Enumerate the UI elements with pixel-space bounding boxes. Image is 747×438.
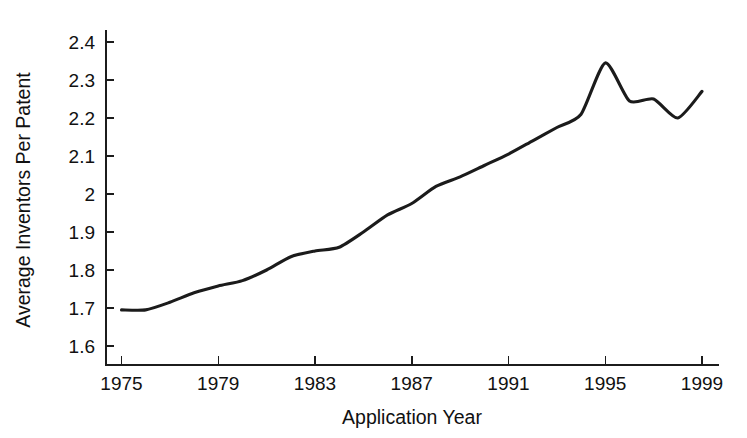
x-tick-label: 1995 xyxy=(584,373,626,394)
y-axis-title: Average Inventors Per Patent xyxy=(12,72,34,328)
y-tick-label: 2.3 xyxy=(69,70,95,91)
series-line-average-inventors xyxy=(122,63,703,310)
y-tick-label: 1.6 xyxy=(69,336,95,357)
y-tick-label: 2 xyxy=(84,184,95,205)
x-axis-tick-labels: 1975197919831987199119951999 xyxy=(100,373,723,394)
y-tick-label: 2.4 xyxy=(69,32,96,53)
x-tick-label: 1987 xyxy=(391,373,433,394)
chart-axes xyxy=(106,30,719,365)
y-tick-label: 2.1 xyxy=(69,146,95,167)
line-chart: 1.61.71.81.922.12.22.32.4 19751979198319… xyxy=(0,0,747,438)
x-tick-label: 1991 xyxy=(487,373,529,394)
y-tick-label: 1.9 xyxy=(69,222,95,243)
x-tick-label: 1983 xyxy=(294,373,336,394)
chart-tick-marks xyxy=(106,42,702,365)
chart-figure: 1.61.71.81.922.12.22.32.4 19751979198319… xyxy=(0,0,747,438)
x-tick-label: 1975 xyxy=(100,373,142,394)
x-tick-label: 1999 xyxy=(681,373,723,394)
x-axis-title: Application Year xyxy=(342,406,482,428)
data-series-line xyxy=(122,63,703,310)
axis-spines xyxy=(106,30,719,365)
y-tick-label: 2.2 xyxy=(69,108,95,129)
x-tick-label: 1979 xyxy=(197,373,239,394)
y-tick-label: 1.7 xyxy=(69,298,95,319)
y-axis-tick-labels: 1.61.71.81.922.12.22.32.4 xyxy=(69,32,96,357)
y-tick-label: 1.8 xyxy=(69,260,95,281)
